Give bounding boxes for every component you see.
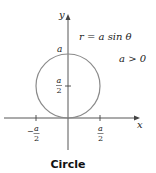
neg-half-num: a	[34, 124, 39, 133]
center-label-num: a	[57, 76, 62, 85]
neg-half-den: 2	[34, 134, 39, 143]
pos-half-num: a	[98, 124, 103, 133]
condition-label: a > 0	[119, 53, 147, 64]
y-axis-arrow-icon	[66, 14, 71, 20]
x-axis-label: x	[137, 119, 143, 130]
caption: Circle	[50, 158, 85, 171]
neg-sign: −	[27, 127, 34, 136]
pos-half-den: 2	[98, 134, 103, 143]
polar-circle-diagram: y x r = a sin θ a > 0 a a 2 − a 2 a 2 Ci…	[0, 0, 156, 173]
y-axis-label: y	[58, 9, 65, 20]
top-label: a	[57, 44, 62, 54]
equation-label: r = a sin θ	[79, 31, 132, 42]
center-label-den: 2	[57, 86, 62, 95]
